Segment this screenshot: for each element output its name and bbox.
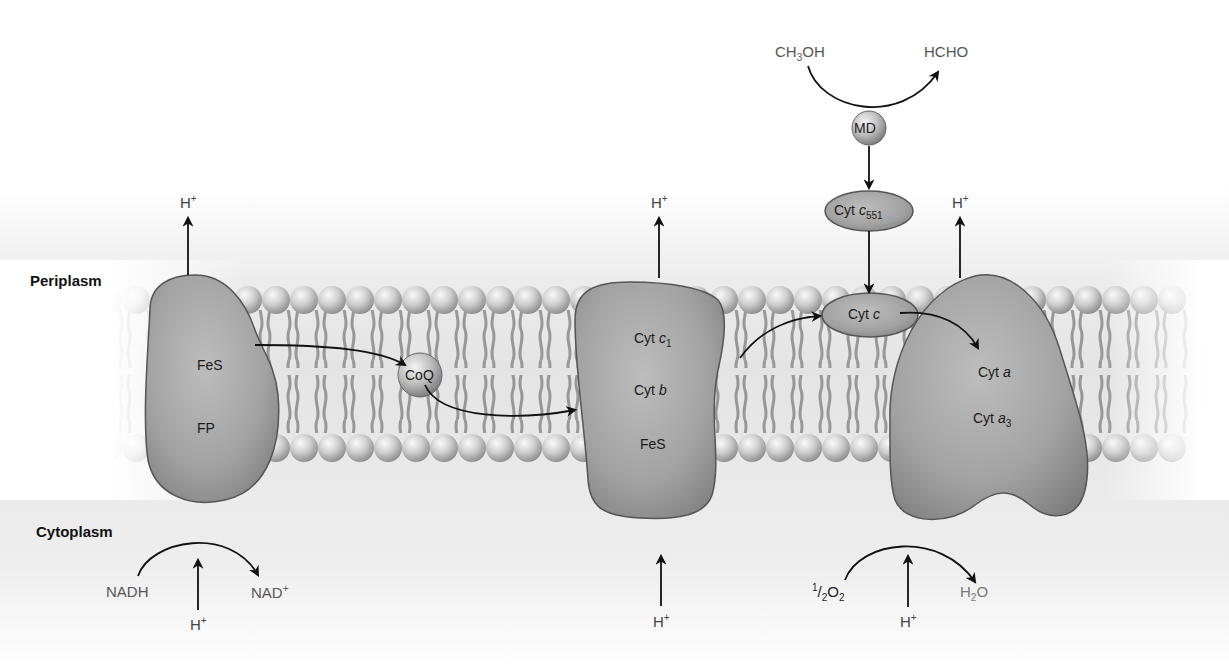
cytoplasm-label: Cytoplasm [36, 523, 113, 540]
nad-label: NAD+ [251, 583, 289, 601]
proton-in-3: H+ [900, 612, 917, 630]
proton-out-1: H+ [180, 193, 197, 211]
cyt-c551-label: Cyt c551 [834, 202, 883, 221]
complex-1-fp-label: FP [197, 420, 215, 436]
etc-diagram: Periplasm Cytoplasm H+ H+ H+ H+ H+ H+ Fe… [0, 0, 1229, 667]
complex-1-fes-label: FeS [197, 357, 223, 373]
complex-3-cyt-c1-label: Cyt c1 [634, 330, 671, 349]
formaldehyde-label: HCHO [924, 43, 968, 60]
proton-in-1: H+ [190, 615, 207, 633]
md-label: MD [854, 120, 876, 136]
complex-4-cyt-a3-label: Cyt a3 [973, 410, 1011, 429]
complex-3-fes-label: FeS [640, 436, 666, 452]
complex-3-shape [575, 282, 724, 518]
water-label: H2O [960, 583, 988, 603]
oxygen-label: 1/2O2 [812, 582, 845, 603]
coq-label: CoQ [405, 367, 434, 383]
periplasm-label: Periplasm [30, 272, 102, 289]
proton-out-2: H+ [651, 193, 668, 211]
cyt-c-label: Cyt c [848, 306, 880, 322]
nadh-label: NADH [106, 583, 149, 600]
complex-3-cyt-b-label: Cyt b [634, 382, 667, 398]
diagram-canvas [0, 0, 1229, 667]
proton-in-2: H+ [653, 612, 670, 630]
methanol-label: CH3OH [775, 43, 825, 63]
complex-4-cyt-a-label: Cyt a [978, 364, 1011, 380]
proton-out-3: H+ [952, 193, 969, 211]
